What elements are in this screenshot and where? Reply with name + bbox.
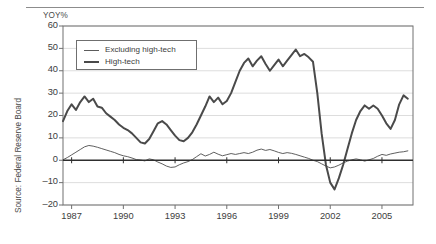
- y-axis-tick-label: 60: [48, 20, 58, 30]
- y-axis-tick-label: –20: [42, 199, 58, 209]
- legend-swatch-line-icon: [84, 50, 99, 51]
- x-axis-tick-label: 2005: [372, 211, 393, 221]
- x-axis-tick-label: 1990: [113, 211, 134, 221]
- y-axis-tick-label: 30: [48, 87, 58, 97]
- x-axis-tick-label: 2002: [320, 211, 341, 221]
- y-axis-tick-label: 10: [48, 131, 58, 141]
- source-label: Source: Federal Reserve Board: [14, 91, 23, 221]
- legend-item-excluding-high-tech: Excluding high-tech: [84, 44, 176, 56]
- legend-label: High-tech: [105, 58, 140, 66]
- y-axis-tick-label: 0: [53, 154, 58, 164]
- y-axis-tick-label: –10: [42, 176, 58, 186]
- y-axis-tick-label: 40: [48, 64, 58, 74]
- legend-item-high-tech: High-tech: [84, 56, 140, 68]
- chart-figure: YOY% Source: Federal Reserve Board 60504…: [0, 0, 436, 244]
- x-axis-tick-label: 1993: [165, 211, 186, 221]
- legend-swatch-line-icon: [84, 61, 99, 63]
- chart-legend: Excluding high-tech High-tech: [76, 40, 197, 70]
- y-axis-tick-label: 50: [48, 42, 58, 52]
- legend-label: Excluding high-tech: [105, 46, 176, 54]
- x-axis-tick-label: 1996: [216, 211, 237, 221]
- x-axis-tick-label: 1987: [61, 211, 82, 221]
- y-axis-tick-label: 20: [48, 109, 58, 119]
- y-axis-tick-labels: 6050403020100–10–20: [28, 0, 58, 244]
- plot-area: [0, 0, 436, 244]
- series-line-excluding-high-tech: [63, 145, 408, 167]
- x-axis-tick-label: 1999: [268, 211, 289, 221]
- header-rule: [26, 7, 424, 8]
